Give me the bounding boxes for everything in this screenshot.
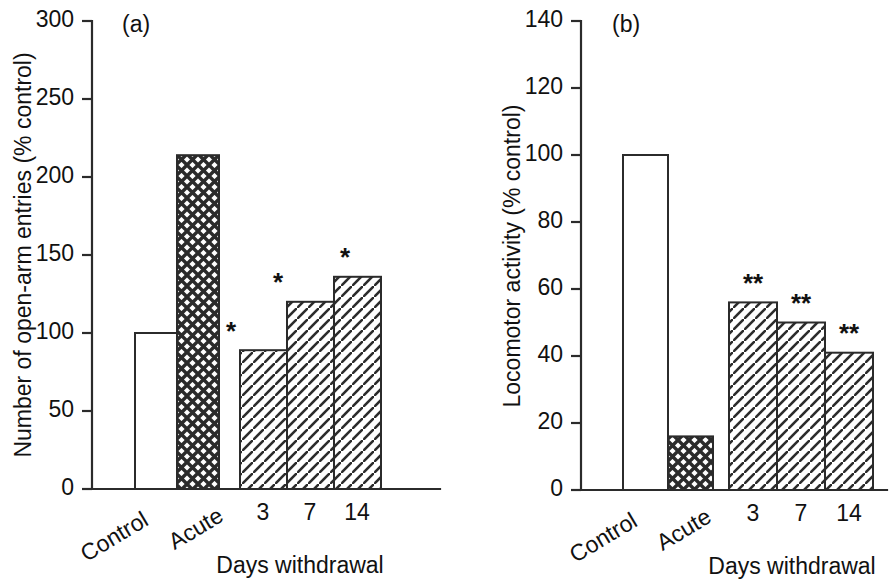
significance-mark-day3-a: * bbox=[226, 316, 237, 346]
x-tick-label-control-a: Control bbox=[76, 506, 153, 566]
x-axis-title-b: Days withdrawal bbox=[708, 553, 875, 579]
significance-mark-day14-b: ** bbox=[839, 318, 860, 348]
y-tick-label: 300 bbox=[36, 6, 74, 32]
bar-day7-b bbox=[777, 323, 825, 491]
bar-control-b bbox=[623, 155, 668, 490]
x-tick-label-day14-b: 14 bbox=[836, 500, 862, 526]
y-axis-title-a: Number of open-arm entries (% control) bbox=[10, 52, 36, 457]
y-tick-label: 50 bbox=[48, 396, 74, 422]
bar-day3-a bbox=[240, 350, 287, 489]
y-tick-label: 60 bbox=[537, 274, 563, 300]
y-axis-title-b: Locomotor activity (% control) bbox=[499, 105, 525, 408]
y-tick-label: 100 bbox=[525, 140, 563, 166]
bar-control-a bbox=[135, 333, 177, 489]
x-tick-label-acute-a: Acute bbox=[164, 502, 228, 555]
x-tick-label-control-b: Control bbox=[565, 507, 642, 567]
chart-panel-a: 300 250 200 150 100 50 0 (a) * * * Contr… bbox=[0, 0, 447, 585]
bar-day3-b bbox=[729, 302, 777, 490]
panel-b-svg: 140 120 100 80 60 40 20 0 (b) ** ** ** C… bbox=[447, 0, 894, 585]
panel-a-svg: 300 250 200 150 100 50 0 (a) * * * Contr… bbox=[0, 0, 447, 585]
y-ticks-b bbox=[571, 21, 581, 490]
y-ticks-a bbox=[82, 21, 92, 489]
significance-mark-day7-a: * bbox=[273, 267, 284, 297]
y-tick-label: 0 bbox=[61, 474, 74, 500]
panel-tag-a: (a) bbox=[122, 11, 150, 37]
y-tick-label: 140 bbox=[525, 6, 563, 32]
x-tick-label-day14-a: 14 bbox=[344, 499, 370, 525]
x-tick-label-day7-a: 7 bbox=[304, 499, 317, 525]
significance-mark-day3-b: ** bbox=[743, 268, 764, 298]
bar-day14-b bbox=[825, 353, 873, 490]
x-tick-label-day3-b: 3 bbox=[747, 500, 760, 526]
x-tick-label-day7-b: 7 bbox=[795, 500, 808, 526]
bar-day14-a bbox=[334, 277, 381, 489]
y-tick-label: 0 bbox=[550, 475, 563, 501]
y-tick-label: 150 bbox=[36, 240, 74, 266]
y-tick-label: 100 bbox=[36, 318, 74, 344]
x-axis-title-a: Days withdrawal bbox=[216, 552, 383, 578]
x-tick-label-acute-b: Acute bbox=[652, 503, 716, 556]
y-tick-label: 80 bbox=[537, 207, 563, 233]
x-tick-label-day3-a: 3 bbox=[257, 499, 270, 525]
y-tick-label: 200 bbox=[36, 162, 74, 188]
y-tick-label: 120 bbox=[525, 73, 563, 99]
significance-mark-day14-a: * bbox=[340, 242, 351, 272]
bar-acute-a bbox=[177, 155, 219, 489]
significance-mark-day7-b: ** bbox=[791, 288, 812, 318]
y-tick-label: 40 bbox=[537, 341, 563, 367]
chart-panel-b: 140 120 100 80 60 40 20 0 (b) ** ** ** C… bbox=[447, 0, 894, 585]
y-tick-label: 20 bbox=[537, 408, 563, 434]
bar-day7-a bbox=[287, 302, 334, 489]
panel-tag-b: (b) bbox=[612, 11, 640, 37]
figure-container: 300 250 200 150 100 50 0 (a) * * * Contr… bbox=[0, 0, 894, 585]
bar-acute-b bbox=[668, 436, 713, 490]
y-tick-label: 250 bbox=[36, 84, 74, 110]
